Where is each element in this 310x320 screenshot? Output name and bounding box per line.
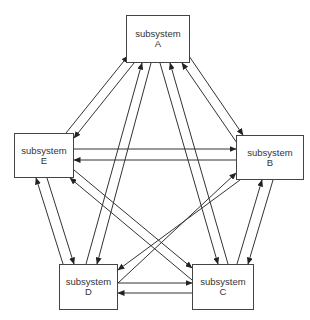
subsystem-d-box: subsystem D bbox=[59, 264, 118, 310]
subsystem-b-box: subsystem B bbox=[236, 135, 304, 180]
subsystem-a-letter: A bbox=[155, 39, 161, 49]
arrow-e-to-d bbox=[47, 178, 74, 264]
arrow-a-to-d bbox=[97, 63, 151, 264]
arrow-e-to-a bbox=[66, 56, 128, 133]
arrow-c-to-b bbox=[237, 180, 262, 264]
subsystem-d-letter: D bbox=[85, 287, 92, 297]
subsystem-c-box: subsystem C bbox=[192, 264, 254, 310]
arrow-d-to-a bbox=[86, 63, 142, 264]
subsystem-b-letter: B bbox=[267, 158, 273, 168]
subsystem-e-letter: E bbox=[41, 156, 47, 166]
arrow-d-to-e bbox=[36, 178, 63, 264]
arrow-a-to-c bbox=[160, 63, 218, 264]
arrow-a-to-b bbox=[189, 56, 243, 135]
subsystem-b-label: subsystem bbox=[247, 148, 292, 158]
arrow-b-to-a bbox=[182, 63, 237, 143]
subsystem-e-box: subsystem E bbox=[14, 133, 74, 178]
subsystem-e-label: subsystem bbox=[21, 146, 66, 156]
subsystem-a-box: subsystem A bbox=[126, 15, 190, 63]
arrow-a-to-e bbox=[74, 63, 134, 138]
arrow-c-to-a bbox=[170, 63, 228, 264]
arrow-b-to-d bbox=[118, 180, 240, 270]
arrow-e-to-c bbox=[74, 170, 192, 268]
arrow-b-to-c bbox=[248, 180, 273, 264]
subsystem-c-letter: C bbox=[220, 287, 227, 297]
